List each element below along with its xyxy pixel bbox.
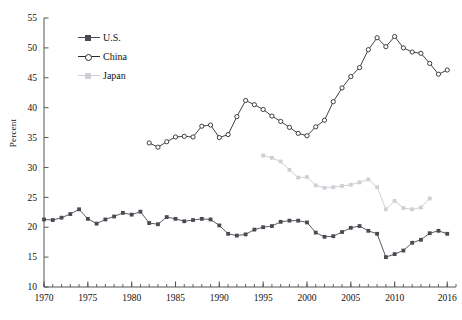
data-point [419, 238, 423, 242]
data-point [147, 221, 151, 225]
y-tick-label: 50 [28, 43, 38, 53]
data-point [235, 234, 239, 238]
y-tick-label: 45 [28, 73, 38, 83]
data-point [209, 218, 213, 222]
data-point [375, 232, 379, 236]
legend-item-us: U.S. [78, 28, 127, 47]
data-point [60, 216, 64, 220]
data-point [156, 145, 160, 149]
data-point [261, 225, 265, 229]
data-point [68, 212, 72, 216]
data-point [42, 218, 46, 222]
data-point [410, 207, 414, 211]
data-point [340, 230, 344, 234]
y-tick-label: 40 [28, 103, 38, 113]
data-point [173, 135, 177, 139]
data-point [252, 103, 256, 107]
data-point [103, 218, 107, 222]
data-point [305, 175, 309, 179]
data-point [445, 232, 449, 236]
data-point [393, 252, 397, 256]
data-point [384, 207, 388, 211]
data-point [200, 217, 204, 221]
data-point [174, 217, 178, 221]
data-point [270, 224, 274, 228]
data-point [226, 232, 230, 236]
chart-legend: U.S. China Japan [78, 28, 127, 85]
data-point [323, 186, 327, 190]
legend-item-china: China [78, 47, 127, 66]
data-point [366, 48, 370, 52]
data-point [191, 135, 195, 139]
plot-area: 1015202530354045505519701975198019851990… [0, 0, 462, 320]
series-japan [261, 154, 431, 212]
legend-marker-japan-icon [78, 70, 100, 81]
data-point [393, 34, 397, 38]
data-point [261, 107, 265, 111]
data-point [121, 211, 125, 215]
data-point [375, 185, 379, 189]
data-point [445, 68, 449, 72]
y-tick-label: 20 [28, 222, 38, 232]
x-tick-label: 1985 [166, 293, 185, 303]
y-tick-label: 25 [28, 193, 38, 203]
data-point [410, 50, 414, 54]
data-point [366, 178, 370, 182]
data-point [349, 183, 353, 187]
legend-label-china: China [103, 52, 127, 62]
x-tick-label: 1980 [122, 293, 141, 303]
data-point [86, 217, 90, 221]
y-tick-label: 35 [28, 133, 38, 143]
x-tick-label: 1975 [78, 293, 97, 303]
data-point [235, 115, 239, 119]
data-point [384, 255, 388, 259]
x-tick-label: 1995 [254, 293, 273, 303]
data-point [156, 222, 160, 226]
data-point [323, 235, 327, 239]
data-point [112, 215, 116, 219]
data-point [384, 45, 388, 49]
data-point [139, 210, 143, 214]
data-point [428, 231, 432, 235]
series-us [42, 207, 449, 259]
data-point [314, 231, 318, 235]
data-point [331, 185, 335, 189]
data-point [244, 98, 248, 102]
data-point [279, 220, 283, 224]
data-point [322, 118, 326, 122]
data-point [358, 224, 362, 228]
legend-label-us: U.S. [103, 33, 121, 43]
chart-container: Percent 10152025303540455055197019751980… [0, 0, 462, 320]
data-point [77, 207, 81, 211]
data-point [252, 228, 256, 232]
data-point [182, 219, 186, 223]
data-point [288, 168, 292, 172]
data-point [428, 61, 432, 65]
data-point [270, 114, 274, 118]
data-point [244, 233, 248, 237]
data-point [419, 51, 423, 55]
data-point [366, 229, 370, 233]
data-point [217, 224, 221, 228]
x-tick-label: 2000 [297, 293, 316, 303]
data-point [375, 36, 379, 40]
data-point [358, 180, 362, 184]
y-tick-label: 10 [28, 282, 38, 292]
data-point [349, 226, 353, 230]
data-point [437, 229, 441, 233]
data-point [340, 86, 344, 90]
data-point [296, 219, 300, 223]
data-point [296, 131, 300, 135]
data-point [200, 124, 204, 128]
y-tick-label: 15 [28, 252, 38, 262]
data-point [165, 215, 169, 219]
data-point [393, 199, 397, 203]
data-point [314, 183, 318, 187]
data-point [130, 213, 134, 217]
data-point [95, 222, 99, 226]
data-point [287, 125, 291, 129]
data-point [331, 234, 335, 238]
x-tick-label: 2005 [341, 293, 360, 303]
data-point [51, 218, 55, 222]
data-point [270, 156, 274, 160]
